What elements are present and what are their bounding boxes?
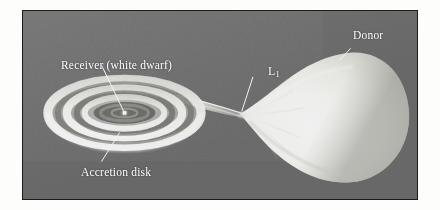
label-receiver-white-dwarf: Receiver (white dwarf) [61,59,172,71]
leader-l1 [242,77,253,111]
label-donor: Donor [353,29,383,41]
l1-convergence-knot [237,112,248,119]
label-l1-point: L1 [268,64,280,79]
figure-container: Receiver (white dwarf) Accretion disk Do… [0,0,440,210]
label-accretion-disk: Accretion disk [81,166,151,178]
label-l1-subscript: 1 [276,69,280,79]
donor-star-group [240,52,409,182]
white-dwarf-point [123,111,127,115]
accretion-disk-group [39,71,210,154]
label-l1-base: L [268,64,276,78]
diagram-plate: Receiver (white dwarf) Accretion disk Do… [22,10,418,200]
